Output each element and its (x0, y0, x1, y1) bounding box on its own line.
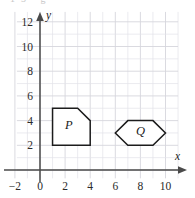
arrow-up-icon (36, 12, 44, 21)
y-tick-label: 12 (22, 16, 34, 28)
x-axis-label: x (174, 150, 181, 162)
x-tick-label: 10 (160, 180, 172, 192)
arrow-right-icon (178, 166, 187, 174)
coordinate-grid-svg: −20246810 24681012 y x PQ (0, 0, 195, 198)
y-tick-label: 8 (27, 65, 33, 77)
x-tick-label: 6 (112, 180, 118, 192)
y-tick-label: 2 (27, 139, 33, 151)
x-tick-label: −2 (9, 180, 21, 192)
x-tick-label: 2 (62, 180, 68, 192)
shape-label-p: P (64, 118, 73, 132)
x-tick-label: 0 (37, 180, 43, 192)
coordinate-plane-figure: 13 g −20246810 24681012 y x PQ (0, 0, 195, 198)
x-axis-tick-labels: −20246810 (9, 180, 172, 192)
y-tick-label: 10 (22, 41, 34, 53)
y-tick-label: 4 (27, 115, 33, 127)
plotted-shapes: PQ (53, 108, 166, 145)
x-tick-label: 8 (138, 180, 144, 192)
y-axis-label: y (45, 9, 52, 22)
y-tick-label: 6 (27, 90, 33, 102)
shape-label-q: Q (136, 124, 145, 138)
x-tick-label: 4 (87, 180, 93, 192)
